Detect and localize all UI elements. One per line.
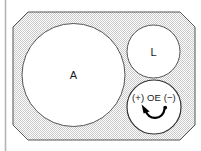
schematic-svg: A L (+) OE (−) — [0, 0, 201, 151]
aperture-oe-circle[interactable] — [127, 80, 181, 134]
aperture-l-label: L — [150, 46, 156, 58]
oe-polarity-label: (+) OE (−) — [132, 92, 176, 103]
diagram-canvas: A L (+) OE (−) — [0, 0, 201, 151]
aperture-a-label: A — [70, 69, 78, 81]
